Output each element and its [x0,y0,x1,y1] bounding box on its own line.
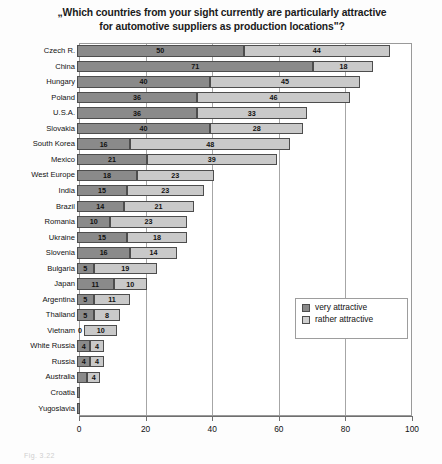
bar-segment-rather[interactable]: 23 [127,185,204,196]
bar-segment-rather[interactable]: 46 [197,92,350,103]
category-label-ukraine: Ukraine [0,234,77,242]
bar-segment-rather[interactable]: 4 [90,356,103,367]
bar-value-label: 21 [155,203,163,210]
stacked-bar[interactable]: 58 [77,309,120,320]
stacked-bar[interactable] [77,387,80,398]
bar-segment-rather[interactable]: 11 [94,294,131,305]
bar-track [77,400,442,416]
bar-track: 1523 [77,183,442,199]
bar-segment-very[interactable]: 15 [77,185,127,196]
bar-segment-rather[interactable]: 4 [90,340,103,351]
bar-segment-rather[interactable]: 33 [197,107,307,118]
bar-segment-rather[interactable]: 8 [94,309,121,320]
bar-track: 1518 [77,230,442,246]
stacked-bar[interactable]: 5044 [77,45,390,56]
bar-segment-very[interactable]: 16 [77,247,130,258]
category-label-romania: Romania [0,218,77,226]
bar-segment-very[interactable]: 40 [77,76,210,87]
bar-segment-very[interactable] [77,403,80,414]
bar-segment-rather[interactable]: 28 [210,123,303,134]
stacked-bar[interactable]: 1823 [77,170,214,181]
bar-segment-very[interactable]: 21 [77,154,147,165]
bar-segment-very[interactable]: 11 [77,278,114,289]
category-label-russia: Russia [0,358,77,366]
stacked-bar[interactable]: 511 [77,294,130,305]
bar-value-label: 4 [95,343,99,350]
bar-segment-very[interactable] [77,387,80,398]
category-label-vietnam: Vietnam [0,327,77,335]
x-tick-100 [412,416,413,421]
stacked-bar[interactable]: 1518 [77,232,187,243]
bar-segment-rather[interactable]: 48 [130,138,290,149]
stacked-bar[interactable]: 2139 [77,154,277,165]
bar-row: U.S.A.3633 [0,105,442,121]
bar-segment-rather[interactable]: 39 [147,154,277,165]
bar-segment-very[interactable]: 36 [77,92,197,103]
bar-segment-very[interactable]: 15 [77,232,127,243]
bar-segment-very[interactable]: 5 [77,309,94,320]
stacked-bar[interactable] [77,403,80,414]
bar-row: Japan1110 [0,276,442,292]
bar-segment-very[interactable]: 16 [77,138,130,149]
bar-segment-very[interactable]: 50 [77,45,244,56]
bar-value-label: 16 [100,249,108,256]
stacked-bar[interactable]: 4045 [77,76,360,87]
stacked-bar[interactable]: 34 [77,372,100,383]
bar-segment-very[interactable]: 36 [77,107,197,118]
category-label-india: India [0,187,77,195]
bar-track: 519 [77,261,442,277]
x-tick-80 [345,416,346,421]
category-label-thailand: Thailand [0,311,77,319]
bar-track: 1823 [77,167,442,183]
legend-item-very[interactable]: very attractive [302,303,402,312]
bar-value-label: 4 [92,374,96,381]
bar-segment-rather[interactable]: 23 [110,216,187,227]
bar-segment-very[interactable]: 40 [77,123,210,134]
legend-item-rather[interactable]: rather attractive [302,315,402,324]
stacked-bar[interactable]: 44 [77,356,104,367]
bar-segment-very[interactable]: 18 [77,170,137,181]
bar-value-label: 15 [98,234,106,241]
bar-segment-very[interactable]: 10 [77,216,110,227]
bar-segment-rather[interactable]: 45 [210,76,360,87]
bar-row: Mexico2139 [0,152,442,168]
bar-segment-rather[interactable]: 14 [130,247,177,258]
bar-value-label: 48 [206,141,214,148]
stacked-bar[interactable]: 3646 [77,92,350,103]
stacked-bar[interactable]: 1023 [77,216,187,227]
stacked-bar[interactable]: 1614 [77,247,177,258]
stacked-bar[interactable]: 519 [77,263,157,274]
bar-segment-very[interactable]: 5 [77,294,94,305]
bar-segment-very[interactable]: 14 [77,201,124,212]
bar-segment-very[interactable]: 4 [77,356,90,367]
bar-segment-rather[interactable]: 23 [137,170,214,181]
bar-segment-very[interactable]: 5 [77,263,94,274]
legend-label: rather attractive [315,315,373,324]
stacked-bar[interactable]: 44 [77,340,104,351]
bar-segment-very[interactable]: 71 [77,61,313,72]
bar-segment-rather[interactable]: 21 [124,201,194,212]
stacked-bar[interactable]: 1421 [77,201,194,212]
bar-segment-rather[interactable]: 4 [87,372,100,383]
bar-segment-rather[interactable]: 18 [313,61,373,72]
bar-segment-rather[interactable]: 10 [84,325,117,336]
stacked-bar[interactable]: 1648 [77,138,290,149]
bar-segment-rather[interactable]: 44 [244,45,391,56]
stacked-bar[interactable]: 10 [84,325,117,336]
stacked-bar[interactable]: 4028 [77,123,303,134]
bar-segment-rather[interactable]: 10 [114,278,147,289]
x-tick-label-40: 40 [197,424,227,434]
bar-segment-very[interactable]: 3 [77,372,87,383]
bar-segment-rather[interactable]: 19 [94,263,157,274]
legend-label: very attractive [315,303,367,312]
stacked-bar[interactable]: 1110 [77,278,147,289]
bar-row: Czech R.5044 [0,43,442,59]
bar-segment-rather[interactable]: 18 [127,232,187,243]
category-label-australia: Australia [0,373,77,381]
bar-segment-very[interactable]: 4 [77,340,90,351]
stacked-bar[interactable]: 7118 [77,61,373,72]
stacked-bar[interactable]: 3633 [77,107,307,118]
chart-container: „Which countries from your sight current… [0,0,442,464]
bar-value-label: 14 [96,203,104,210]
stacked-bar[interactable]: 1523 [77,185,204,196]
